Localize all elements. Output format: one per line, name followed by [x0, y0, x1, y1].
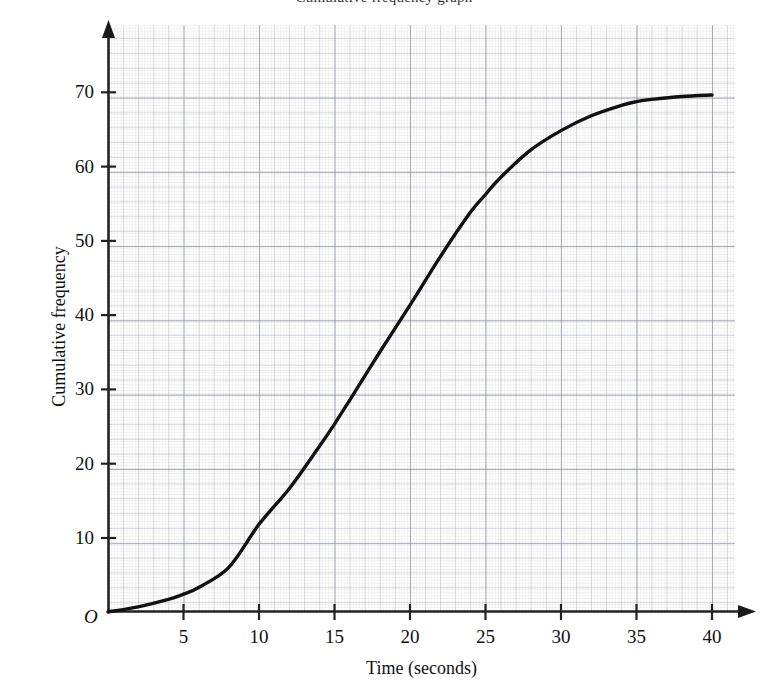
cumulative-frequency-chart: Cumulative frequency graph	[0, 0, 768, 698]
graph-paper-grid	[108, 25, 735, 612]
x-tick-label-10: 10	[250, 626, 269, 648]
y-axis-title: Cumulative frequency	[49, 33, 70, 620]
x-tick-label-25: 25	[476, 626, 495, 648]
x-tick-label-30: 30	[552, 626, 571, 648]
chart-title: Cumulative frequency graph	[0, 0, 768, 5]
x-tick-label-5: 5	[179, 626, 189, 648]
origin-label: O	[84, 606, 98, 628]
x-tick-label-20: 20	[401, 626, 420, 648]
x-axis-title: Time (seconds)	[108, 658, 735, 679]
x-tick-label-40: 40	[703, 626, 722, 648]
x-tick-label-35: 35	[627, 626, 646, 648]
x-tick-label-15: 15	[325, 626, 344, 648]
